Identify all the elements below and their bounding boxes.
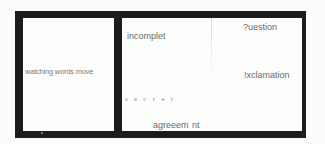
question-word: ?uestion — [243, 23, 277, 32]
agreement-word: agreeem nt — [153, 121, 200, 130]
exclamation-word: !xclamation — [244, 71, 290, 80]
artwork-frame: watching words move incomplet s e c r e … — [15, 11, 306, 138]
panel-seam — [211, 18, 212, 78]
secret-word: s e c r e t — [125, 97, 175, 103]
left-panel: watching words move — [23, 18, 114, 131]
right-panel: incomplet s e c r e t agreeem nt ?uestio… — [122, 18, 302, 131]
watching-words-move-text: watching words move — [25, 68, 93, 75]
incomplete-word: incomplet — [127, 32, 166, 41]
dust-speck — [41, 132, 43, 134]
